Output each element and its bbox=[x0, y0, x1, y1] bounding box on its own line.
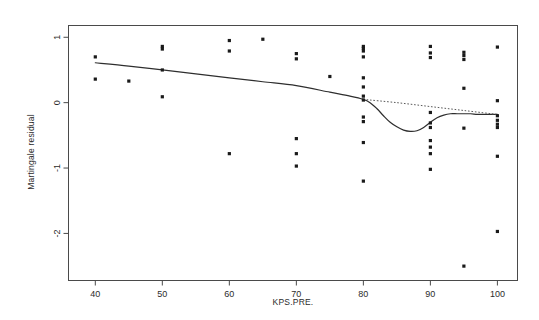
x-tick-label: 90 bbox=[425, 289, 435, 299]
data-point bbox=[362, 180, 365, 183]
data-point bbox=[496, 155, 499, 158]
data-point bbox=[94, 55, 97, 58]
y-tick-label: 1 bbox=[52, 35, 62, 40]
data-point bbox=[362, 49, 365, 52]
martingale-residual-plot: 10-1-2 405060708090100 KPS.PRE. Martinga… bbox=[0, 0, 539, 320]
data-point bbox=[429, 139, 432, 142]
data-point bbox=[429, 51, 432, 54]
data-point bbox=[161, 47, 164, 50]
y-axis-title: Martingale residual bbox=[26, 114, 36, 190]
data-point bbox=[496, 126, 499, 129]
data-point bbox=[161, 68, 164, 71]
data-point bbox=[429, 152, 432, 155]
plot-background bbox=[0, 0, 539, 320]
data-point bbox=[496, 123, 499, 126]
data-point bbox=[228, 39, 231, 42]
x-tick-label: 60 bbox=[224, 289, 234, 299]
data-point bbox=[496, 99, 499, 102]
data-point bbox=[228, 152, 231, 155]
data-point bbox=[362, 120, 365, 123]
y-tick-label: -1 bbox=[52, 164, 62, 172]
data-point bbox=[462, 87, 465, 90]
data-point bbox=[429, 121, 432, 124]
data-point bbox=[295, 57, 298, 60]
data-point bbox=[496, 230, 499, 233]
data-point bbox=[295, 137, 298, 140]
data-point bbox=[496, 119, 499, 122]
data-point bbox=[429, 126, 432, 129]
data-point bbox=[362, 76, 365, 79]
data-point bbox=[362, 95, 365, 98]
data-point bbox=[462, 51, 465, 54]
data-point bbox=[496, 114, 499, 117]
data-point bbox=[295, 52, 298, 55]
data-point bbox=[429, 56, 432, 59]
data-point bbox=[462, 58, 465, 61]
data-point bbox=[429, 45, 432, 48]
data-point bbox=[228, 49, 231, 52]
data-point bbox=[362, 115, 365, 118]
x-tick-label: 100 bbox=[490, 289, 505, 299]
data-point bbox=[94, 78, 97, 81]
data-point bbox=[362, 55, 365, 58]
data-point bbox=[261, 38, 264, 41]
x-tick-label: 80 bbox=[358, 289, 368, 299]
data-point bbox=[462, 54, 465, 57]
data-point bbox=[496, 45, 499, 48]
chart-canvas: 10-1-2 405060708090100 KPS.PRE. Martinga… bbox=[0, 0, 539, 320]
x-tick-label: 50 bbox=[157, 289, 167, 299]
data-point bbox=[127, 79, 130, 82]
data-point bbox=[362, 141, 365, 144]
data-point bbox=[462, 265, 465, 268]
data-point bbox=[429, 146, 432, 149]
data-point bbox=[295, 152, 298, 155]
data-point bbox=[328, 75, 331, 78]
data-point bbox=[429, 111, 432, 114]
data-point bbox=[161, 95, 164, 98]
x-tick-label: 40 bbox=[90, 289, 100, 299]
data-point bbox=[362, 85, 365, 88]
x-axis-title: KPS.PRE. bbox=[273, 297, 314, 307]
data-point bbox=[362, 98, 365, 101]
y-tick-label: -2 bbox=[52, 229, 62, 237]
data-point bbox=[295, 164, 298, 167]
data-point bbox=[429, 168, 432, 171]
data-point bbox=[462, 127, 465, 130]
y-tick-label: 0 bbox=[52, 100, 62, 105]
